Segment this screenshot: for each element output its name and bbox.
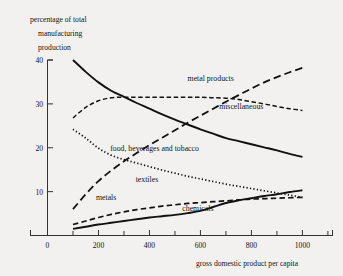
series-label-metals: metals: [96, 193, 116, 202]
series-line-miscellaneous: [73, 97, 302, 118]
x-axis-tick-labels: 02004006008001000: [46, 241, 311, 250]
y-axis-tick-labels: 10203040: [35, 56, 43, 197]
chart-title-line-3: production: [38, 43, 71, 52]
series-line-textiles: [73, 129, 302, 197]
y-tick-label: 10: [35, 188, 43, 197]
x-tick-label: 600: [195, 241, 207, 250]
x-tick-label: 400: [144, 241, 156, 250]
x-tick-label: 800: [246, 241, 258, 250]
x-tick-label: 200: [93, 241, 105, 250]
manufacturing-production-line-chart: percentage of total manufacturing produc…: [0, 0, 343, 276]
y-tick-label: 30: [35, 100, 43, 109]
x-tick-label: 0: [46, 241, 50, 250]
chart-title-line-2: manufacturing: [38, 29, 82, 38]
series-label-textiles: textiles: [136, 175, 159, 184]
chart-title-line-1: percentage of total: [30, 15, 87, 24]
chart-figure: percentage of total manufacturing produc…: [0, 0, 343, 276]
series-label-metal-products: metal products: [188, 74, 234, 83]
y-tick-label: 20: [35, 144, 43, 153]
chart-title: percentage of total manufacturing produc…: [30, 15, 87, 52]
series-label-chemicals: chemicals: [182, 204, 213, 213]
x-axis-ticks: [31, 230, 333, 236]
y-axis-ticks: [48, 60, 54, 192]
x-tick-label: 1000: [295, 241, 310, 250]
series-label-miscellaneous: miscellaneous: [219, 102, 263, 111]
series-label-food-beverages-and-tobacco: food, beverages and tobacco: [110, 144, 199, 153]
y-tick-label: 40: [35, 56, 43, 65]
x-axis-label: gross domestic product per capita: [196, 259, 299, 268]
